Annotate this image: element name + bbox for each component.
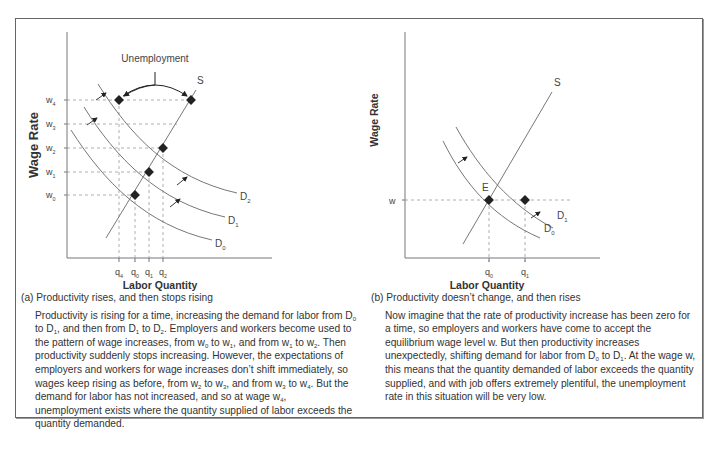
equilibrium-label-e: E [482,182,489,193]
point-w2-q2 [158,143,168,153]
caption-a-body: Productivity is rising for a time, incre… [21,309,356,431]
q-tick-label-1: q1 [521,267,529,279]
shift-arrow-3 [177,177,187,185]
supply-curve [106,90,196,238]
shift-arrow-4 [170,199,180,207]
q-tick-label-0: q0 [131,267,139,279]
w-tick-label: w [388,196,396,206]
q-tick-label-4: q4 [115,267,123,279]
demand-curve-d0 [71,130,212,240]
supply-label-s: S [197,75,204,86]
point-w-q1 [520,195,530,205]
demand-curve-d1 [84,107,225,217]
caption-b-title: (b) Productivity doesn’t change, and the… [371,291,696,305]
demand-label-d0: D0 [215,238,226,251]
demand-curve-d0 [443,141,540,238]
panel-b-chart: SED1D0wq0q1Labor QuantityWage Rate [368,32,600,291]
y-axis-label: Wage Rate [26,112,41,178]
shift-arrow-1 [458,157,467,163]
y-axis-label: Wage Rate [368,93,380,146]
demand-label-d1: D1 [557,210,568,223]
w-tick-label-4: w4 [45,95,56,107]
supply-label-s: S [554,77,561,88]
q-tick-label-1: q1 [145,267,153,279]
w-tick-label-1: w1 [45,167,56,179]
demand-label-d1: D1 [228,215,239,228]
point-equilibrium-e [484,195,494,205]
x-axis-label: Labor Quantity [123,279,198,291]
caption-a: (a) Productivity rises, and then stops r… [21,291,356,431]
shift-arrow-1 [96,93,106,100]
unemployment-arrow-left [124,85,155,96]
supply-curve [463,92,552,244]
point-w0-q0 [130,190,140,200]
q-tick-label-0: q0 [485,267,493,279]
point-w4-q4 [114,95,124,105]
w-tick-label-2: w2 [45,143,56,155]
w-tick-label-0: w0 [45,190,56,202]
point-w1-q1 [144,167,154,177]
q-tick-label-2: q2 [159,267,167,279]
caption-b: (b) Productivity doesn’t change, and the… [371,291,696,404]
demand-label-d2: D2 [240,191,251,204]
caption-b-body: Now imagine that the rate of productivit… [371,309,696,404]
demand-label-d0: D0 [544,223,555,236]
panel-a-chart: UnemploymentSD2D1D0w0w1w2w3w4q4q0q1q2Lab… [26,32,272,291]
unemployment-label: Unemployment [121,53,188,64]
caption-a-title: (a) Productivity rises, and then stops r… [21,291,356,305]
w-tick-label-3: w3 [45,119,56,131]
x-axis-label: Labor Quantity [450,279,525,291]
